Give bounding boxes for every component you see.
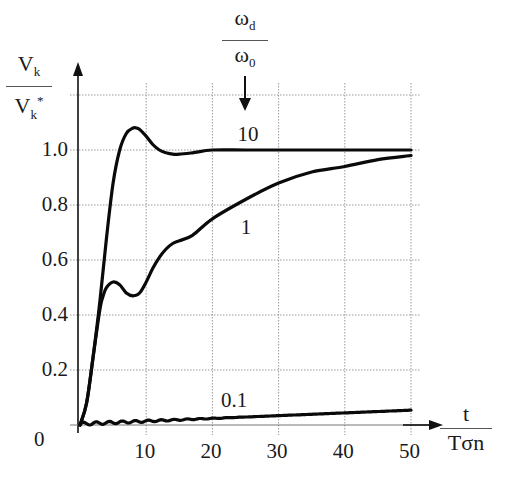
x-tick-label: 10	[134, 439, 155, 464]
y-tick-label: 0.6	[42, 247, 68, 272]
down-arrow-icon	[239, 98, 251, 111]
x-tick-label: 30	[267, 439, 288, 464]
y-tick-label: 0.8	[42, 192, 68, 217]
curve-1	[80, 156, 411, 426]
y-tick-label: 0.4	[42, 302, 68, 327]
x-tick-label: 50	[399, 439, 420, 464]
curve-10	[80, 128, 411, 425]
legend-title: ωd ω0	[222, 6, 268, 76]
curve-label: 10	[238, 122, 259, 147]
y-tick-label: 0	[34, 427, 45, 452]
y-tick-label: 0.2	[42, 357, 68, 382]
curve-label: 0.1	[221, 388, 247, 413]
data-curves	[80, 128, 411, 425]
x-tick-label: 40	[333, 439, 354, 464]
x-axis-label: t Tσn	[440, 402, 492, 455]
y-tick-label: 1.0	[42, 137, 68, 162]
y-axis-arrow-icon	[73, 62, 83, 76]
x-tick-label: 20	[200, 439, 221, 464]
y-axis-label: Vk Vk*	[6, 52, 52, 127]
axes	[70, 62, 443, 433]
curve-label: 1	[241, 215, 252, 240]
